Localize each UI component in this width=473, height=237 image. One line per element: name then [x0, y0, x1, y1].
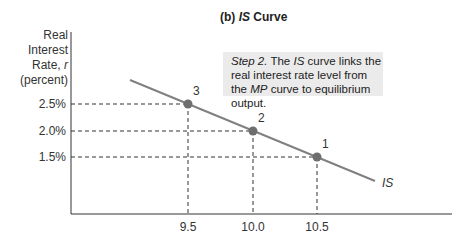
chart-plot: [0, 0, 473, 237]
annotation-box: Step 2. The IS curve links the real inte…: [223, 52, 383, 96]
point-label-1: 1: [322, 137, 329, 151]
point-2: [249, 127, 258, 136]
is-curve-label: IS: [382, 176, 393, 190]
point-3: [184, 100, 193, 109]
point-label-3: 3: [193, 84, 200, 98]
point-label-2: 2: [258, 111, 265, 125]
guide-lines: [71, 104, 317, 214]
point-1: [313, 153, 322, 162]
